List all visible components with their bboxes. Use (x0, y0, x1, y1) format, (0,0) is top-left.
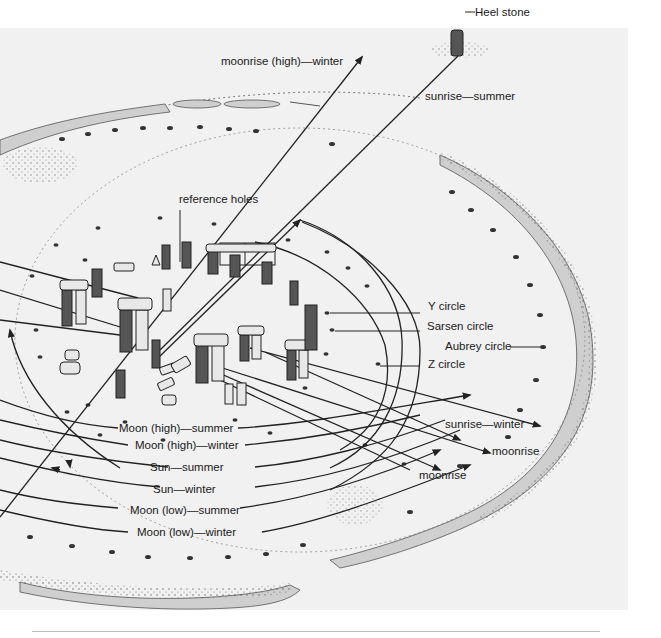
label-sarsen-circle: Sarsen circle (427, 320, 493, 333)
label-moonrise-high-winter: moonrise (high)—winter (221, 55, 343, 68)
label-reference-holes: reference holes (179, 193, 258, 206)
label-sun-summer: Sun—summer (150, 461, 224, 474)
trilithon-centerleft (118, 298, 152, 352)
label-aubrey-circle: Aubrey circle (445, 340, 511, 353)
label-y-circle: Y circle (428, 300, 466, 313)
trilithon-left (60, 280, 88, 326)
label-moon-high-winter: Moon (high)—winter (135, 439, 239, 452)
label-moonrise-lower: moonrise (419, 469, 466, 482)
trilithon-mid (238, 326, 264, 361)
label-sunrise-summer: sunrise—summer (425, 90, 515, 103)
label-z-circle: Z circle (428, 358, 465, 371)
stonehenge-drawing (0, 0, 661, 638)
label-moonrise-right: moonrise (492, 445, 539, 458)
caption-divider (32, 631, 600, 632)
label-sun-winter: Sun—winter (153, 483, 216, 496)
label-sunrise-winter: sunrise—winter (445, 418, 524, 431)
trilithon-center (194, 334, 228, 383)
label-heel-stone: Heel stone (475, 6, 530, 19)
label-moon-high-summer: Moon (high)—summer (119, 422, 233, 435)
label-moon-low-winter: Moon (low)—winter (137, 526, 236, 539)
label-moon-low-summer: Moon (low)—summer (130, 504, 240, 517)
alignment-rings (255, 220, 420, 490)
heel-stone (451, 30, 463, 56)
